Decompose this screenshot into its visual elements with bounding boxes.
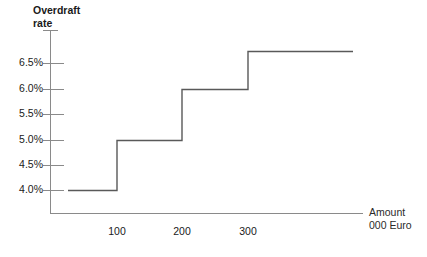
step-chart: Overdraft rate 6.5% 6.0% 5.5% 5.0% 4.5% … [0,0,427,257]
x-tick-label-200: 200 [162,225,202,237]
y-axis-title-line-2: rate [33,17,80,30]
y-tick-label-4-5: 4.5% [0,158,43,170]
y-axis-title: Overdraft rate [33,4,80,29]
x-axis-title-line-2: 000 Euro [369,219,412,232]
x-axis-title: Amount 000 Euro [369,206,412,232]
y-tick-label-5-0: 5.0% [0,133,43,145]
chart-plot-area [0,0,427,257]
x-axis-title-line-1: Amount [369,206,412,219]
x-tick-label-300: 300 [228,225,268,237]
y-axis-title-line-1: Overdraft [33,4,80,17]
y-tick-label-6-5: 6.5% [0,56,43,68]
x-tick-label-100: 100 [97,225,137,237]
y-tick-label-5-5: 5.5% [0,107,43,119]
y-axis [43,30,64,214]
y-tick-label-4-0: 4.0% [0,183,43,195]
y-tick-label-6-0: 6.0% [0,82,43,94]
step-series-line [68,52,353,191]
